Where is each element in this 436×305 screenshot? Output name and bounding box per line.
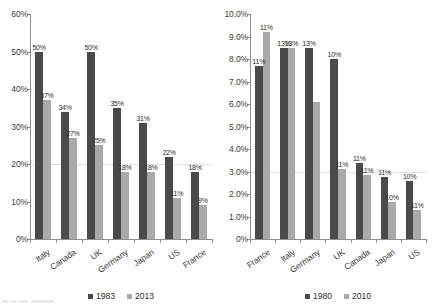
bar	[121, 172, 129, 240]
legend-color-swatch	[127, 294, 132, 299]
x-axis-category-label: France	[181, 247, 208, 270]
two-panel-bar-figure: 50%37%34%27%50%25%35%18%31%18%22%11%18%9…	[0, 0, 436, 305]
legend-color-swatch	[305, 294, 310, 299]
x-axis-tick-mark	[134, 239, 135, 243]
bar-value-label: 31%	[136, 115, 150, 122]
bar-value-label: 25%	[92, 137, 106, 144]
y-axis-tick-label: 50%	[2, 47, 28, 57]
legend-item: 2013	[127, 291, 154, 301]
bar	[35, 52, 43, 240]
bar-group	[381, 14, 396, 239]
y-axis-tick-label: 9.0%	[214, 32, 248, 42]
y-axis-tick-label: 5.0%	[214, 122, 248, 132]
x-axis-tick-mark	[30, 239, 31, 243]
x-axis-tick-mark	[300, 239, 301, 243]
legend-label: 2013	[135, 291, 154, 301]
y-axis-tick-label: 40%	[2, 84, 28, 94]
y-axis-tick-label: 0%	[2, 234, 28, 244]
y-axis-tick-label: 10%	[2, 197, 28, 207]
x-axis-category-label: Japan	[373, 247, 397, 268]
bar-value-label: 11%	[335, 161, 349, 168]
legend-color-swatch	[344, 294, 349, 299]
legend-label: 1980	[313, 291, 332, 301]
bar-value-label: 37%	[40, 92, 54, 99]
bar-value-label: 10%	[403, 173, 417, 180]
bar-value-label: 34%	[58, 104, 72, 111]
y-axis-tick-label: 2.0%	[214, 189, 248, 199]
chart-panel-right: 11%11%13%13%13%10%11%11%11%11%10%10%11% …	[218, 0, 436, 305]
bar	[191, 172, 199, 240]
bar	[313, 102, 321, 239]
y-axis-tick-label: 10.0%	[214, 9, 248, 19]
bar	[406, 181, 414, 240]
bars-layer-right: 11%11%13%13%13%10%11%11%11%11%10%10%11%	[250, 14, 426, 239]
bar-value-label: 35%	[110, 100, 124, 107]
x-axis-tick-mark	[401, 239, 402, 243]
bar-group	[61, 14, 77, 239]
x-axis-category-label: Japan	[132, 247, 156, 268]
x-axis-category-label: UK	[332, 247, 347, 262]
bars-layer-left: 50%37%34%27%50%25%35%18%31%18%22%11%18%9…	[30, 14, 212, 239]
bar-group	[305, 14, 320, 239]
bar-group	[356, 14, 371, 239]
x-axis-tick-mark	[275, 239, 276, 243]
x-axis-category-label: France	[244, 247, 271, 270]
x-axis-category-label: Canada	[342, 247, 372, 272]
y-axis-tick-label: 20%	[2, 159, 28, 169]
y-axis-tick-label: 8.0%	[214, 54, 248, 64]
bar-value-label: 11%	[378, 169, 392, 176]
x-axis-tick-mark	[426, 239, 427, 243]
x-axis-line	[30, 239, 212, 240]
bar-value-label: 27%	[66, 130, 80, 137]
x-axis-tick-mark	[250, 239, 251, 243]
bar	[43, 100, 51, 239]
y-axis-tick-label: 4.0%	[214, 144, 248, 154]
legend-label: 2010	[352, 291, 371, 301]
bar	[139, 123, 147, 239]
x-axis-tick-mark	[186, 239, 187, 243]
bar-value-label: 11%	[353, 155, 367, 162]
bar-group	[280, 14, 295, 239]
bar-value-label: 18%	[144, 164, 158, 171]
bar-value-label: 18%	[118, 164, 132, 171]
x-axis-tick-mark	[56, 239, 57, 243]
bar-value-label: 18%	[188, 164, 202, 171]
bar	[288, 48, 296, 239]
y-axis-tick-label: 7.0%	[214, 77, 248, 87]
bar-group	[330, 14, 345, 239]
legend-right: 19802010	[250, 291, 426, 301]
bar	[95, 145, 103, 239]
bar	[338, 169, 346, 239]
bar	[381, 177, 389, 239]
x-axis-tick-mark	[376, 239, 377, 243]
x-axis-tick-mark	[160, 239, 161, 243]
bar-group	[139, 14, 155, 239]
y-axis-tick-label: 60%	[2, 9, 28, 19]
x-axis-tick-mark	[212, 239, 213, 243]
bar-value-label: 13%	[302, 40, 316, 47]
bar	[356, 163, 364, 240]
x-axis-labels-left: ItalyCanadaUKGermanyJapanUSFrance	[30, 245, 212, 285]
bar-group	[191, 14, 207, 239]
bar	[87, 52, 95, 240]
legend-color-swatch	[88, 294, 93, 299]
bar-value-label: 50%	[84, 44, 98, 51]
legend-label: 1983	[96, 291, 115, 301]
bar	[147, 172, 155, 240]
bar	[413, 210, 421, 239]
bar	[280, 48, 288, 239]
legend-item: 1980	[305, 291, 332, 301]
y-axis-tick-label: 0%	[214, 234, 248, 244]
bar-value-label: 11%	[360, 167, 374, 174]
x-axis-tick-mark	[108, 239, 109, 243]
bar	[255, 66, 263, 239]
x-axis-tick-mark	[82, 239, 83, 243]
bar	[330, 59, 338, 239]
bar-group	[113, 14, 129, 239]
x-axis-category-label: Canada	[48, 247, 78, 272]
legend-item: 2010	[344, 291, 371, 301]
y-axis-tick-label: 6.0%	[214, 99, 248, 109]
bar-value-label: 10%	[327, 51, 341, 58]
x-axis-category-label: Italy	[34, 247, 52, 264]
bar-value-label: 11%	[410, 202, 424, 209]
